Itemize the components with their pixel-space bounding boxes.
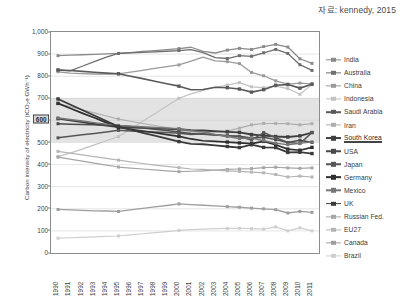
y-axis-tick-labels: 01002003004005006007008009001,000: [20, 31, 48, 252]
legend-item-south-korea[interactable]: South Korea: [326, 132, 405, 145]
x-tick-1996: 1996: [125, 282, 132, 296]
y-tick-0: 0: [44, 249, 48, 256]
legend-marker-icon: [326, 94, 341, 103]
legend-label: India: [344, 56, 359, 63]
y-tick-1,000: 1,000: [32, 28, 48, 35]
legend-item-australia[interactable]: Australia: [326, 66, 405, 79]
legend-marker-icon: [326, 251, 341, 260]
x-tick-2004: 2004: [222, 282, 229, 296]
x-tick-1992: 1992: [77, 282, 84, 296]
legend-item-japan[interactable]: Japan: [326, 158, 405, 171]
legend-item-canada[interactable]: Canada: [326, 236, 405, 249]
series-uk: [56, 97, 313, 155]
legend-label: Russian Fed.: [344, 213, 384, 220]
y-tick-700: 700: [37, 94, 48, 101]
legend-marker-icon: [326, 107, 341, 116]
legend-marker-icon: [326, 81, 341, 90]
x-tick-2006: 2006: [246, 282, 253, 296]
legend-item-uk[interactable]: UK: [326, 197, 405, 210]
y-tick-800: 800: [37, 72, 48, 79]
x-tick-1997: 1997: [137, 282, 144, 296]
legend-item-india[interactable]: India: [326, 53, 405, 66]
source-caption: 자료: kennedy, 2015: [318, 3, 396, 15]
series-brazil: [57, 225, 314, 239]
y-tick-500: 500: [37, 138, 48, 145]
x-tick-2000: 2000: [173, 282, 180, 296]
legend-label: USA: [344, 148, 358, 155]
x-axis-tick-labels: 1990199119921993199419951996199719981999…: [50, 254, 318, 296]
x-tick-1994: 1994: [101, 282, 108, 296]
legend-marker-icon: [326, 212, 341, 221]
legend-label: Indonesia: [344, 95, 373, 102]
x-tick-2011: 2011: [306, 282, 313, 296]
legend-item-germany[interactable]: Germany: [326, 171, 405, 184]
chart-legend: IndiaAustraliaChinaIndonesiaSaudi Arabia…: [326, 53, 405, 263]
x-tick-1990: 1990: [52, 282, 59, 296]
legend-marker-icon: [326, 225, 341, 234]
x-tick-2007: 2007: [258, 282, 265, 296]
legend-label: Brazil: [344, 252, 361, 259]
legend-marker-icon: [326, 68, 341, 77]
legend-item-brazil[interactable]: Brazil: [326, 249, 405, 262]
legend-item-mexico[interactable]: Mexico: [326, 184, 405, 197]
x-tick-1993: 1993: [89, 282, 96, 296]
legend-marker-icon: [326, 238, 341, 247]
series-mexico: [57, 116, 314, 146]
legend-label: Japan: [344, 161, 362, 168]
legend-label: Canada: [344, 239, 368, 246]
x-tick-1991: 1991: [64, 282, 71, 296]
legend-item-indonesia[interactable]: Indonesia: [326, 92, 405, 105]
x-tick-1995: 1995: [113, 282, 120, 296]
legend-marker-icon: [326, 173, 341, 182]
legend-marker-icon: [326, 55, 341, 64]
legend-marker-icon: [326, 134, 341, 143]
y-tick-300: 300: [37, 182, 48, 189]
legend-label: Australia: [344, 69, 370, 76]
y-tick-600: 600: [33, 115, 49, 124]
x-tick-2001: 2001: [185, 282, 192, 296]
y-tick-900: 900: [37, 50, 48, 57]
legend-label: Mexico: [344, 187, 365, 194]
series-australia: [57, 48, 314, 72]
chart-figure: Carbon intensity of electricity (tCO₂e G…: [0, 22, 405, 294]
series-eu27: [57, 150, 314, 179]
x-tick-2002: 2002: [198, 282, 205, 296]
legend-item-china[interactable]: China: [326, 79, 405, 92]
legend-item-usa[interactable]: USA: [326, 145, 405, 158]
x-tick-1998: 1998: [149, 282, 156, 296]
x-tick-2005: 2005: [234, 282, 241, 296]
legend-marker-icon: [326, 186, 341, 195]
legend-label: Saudi Arabia: [344, 108, 383, 115]
legend-label: UK: [344, 200, 353, 207]
legend-item-eu27[interactable]: EU27: [326, 223, 405, 236]
legend-marker-icon: [326, 160, 341, 169]
x-tick-2003: 2003: [210, 282, 217, 296]
plot-area: [50, 31, 320, 254]
legend-label: China: [344, 82, 362, 89]
legend-marker-icon: [326, 147, 341, 156]
legend-marker-icon: [326, 121, 341, 130]
legend-label: South Korea: [344, 134, 382, 143]
legend-item-saudi-arabia[interactable]: Saudi Arabia: [326, 105, 405, 118]
legend-label: EU27: [344, 226, 361, 233]
legend-label: Iran: [344, 122, 356, 129]
series-canada: [57, 202, 314, 214]
series-lines: [51, 32, 319, 253]
x-tick-1999: 1999: [161, 282, 168, 296]
y-tick-200: 200: [37, 204, 48, 211]
legend-item-iran[interactable]: Iran: [326, 118, 405, 131]
y-tick-100: 100: [37, 226, 48, 233]
x-tick-2010: 2010: [294, 282, 301, 296]
y-tick-400: 400: [37, 160, 48, 167]
legend-marker-icon: [326, 199, 341, 208]
x-tick-2009: 2009: [282, 282, 289, 296]
legend-item-russian-fed-[interactable]: Russian Fed.: [326, 210, 405, 223]
legend-label: Germany: [344, 174, 372, 181]
x-tick-2008: 2008: [270, 282, 277, 296]
